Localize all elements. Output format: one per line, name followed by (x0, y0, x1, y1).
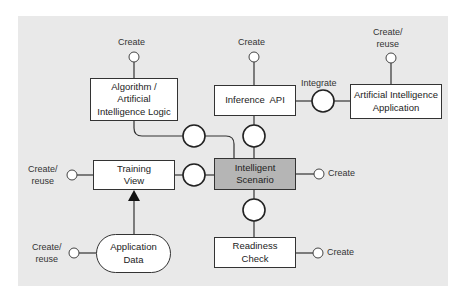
node-algorithm-line3: Intelligence Logic (97, 106, 170, 119)
node-ai-app-line2: Application (354, 102, 438, 115)
node-application-data[interactable]: Application Data (96, 234, 171, 273)
node-algorithm[interactable]: Algorithm / Artificial Intelligence Logi… (90, 78, 178, 121)
label-readiness-create: Create (327, 247, 354, 259)
interface-circle-readiness (243, 199, 265, 221)
node-inference-label: Inference API (225, 94, 285, 107)
label-training-line2: reuse (28, 176, 58, 188)
node-app-data-line1: Application (110, 241, 156, 254)
interface-circle-algorithm (183, 125, 205, 147)
lifecycle-circle-readiness (313, 248, 323, 258)
label-app-data-line1: Create/ (32, 242, 62, 254)
node-readiness-line2: Check (233, 253, 278, 266)
interface-circle-inference (243, 125, 265, 147)
node-app-data-line2: Data (110, 254, 156, 267)
lifecycle-circle-app-data (69, 248, 79, 258)
label-ai-app-line2: reuse (373, 39, 403, 51)
lifecycle-circle-algorithm (129, 52, 139, 62)
node-training-line2: View (117, 175, 151, 188)
label-app-data-line2: reuse (32, 254, 62, 266)
label-training-line1: Create/ (28, 164, 58, 176)
node-scenario-line1: Intelligent (235, 162, 276, 175)
label-app-data-create: Create/ reuse (32, 242, 62, 265)
node-training-line1: Training (117, 163, 151, 176)
label-scenario-create: Create (328, 168, 355, 180)
node-intelligent-scenario[interactable]: Intelligent Scenario (214, 158, 296, 190)
lifecycle-circle-ai-app (386, 53, 396, 63)
node-ai-application[interactable]: Artificial Intelligence Application (350, 84, 442, 119)
interface-circle-integrate (312, 90, 334, 112)
label-integrate: Integrate (301, 78, 337, 90)
node-ai-app-line1: Artificial Intelligence (354, 89, 438, 102)
label-training-create: Create/ reuse (28, 164, 58, 187)
label-ai-app-line1: Create/ (373, 27, 403, 39)
lifecycle-circle-scenario (314, 169, 324, 179)
node-inference-api[interactable]: Inference API (214, 85, 296, 116)
label-algorithm-create: Create (118, 37, 145, 49)
lifecycle-circle-inference (249, 52, 259, 62)
label-ai-app-create: Create/ reuse (373, 27, 403, 50)
label-inference-create: Create (238, 37, 265, 49)
node-scenario-line2: Scenario (235, 174, 276, 187)
interface-circle-training (183, 164, 205, 186)
lifecycle-circle-training (67, 170, 77, 180)
arrow-head-icon (128, 190, 140, 201)
node-readiness-check[interactable]: Readiness Check (214, 237, 296, 268)
node-algorithm-line2: Artificial (97, 93, 170, 106)
node-readiness-line1: Readiness (233, 240, 278, 253)
node-algorithm-line1: Algorithm / (97, 81, 170, 94)
node-training-view[interactable]: Training View (93, 160, 175, 190)
